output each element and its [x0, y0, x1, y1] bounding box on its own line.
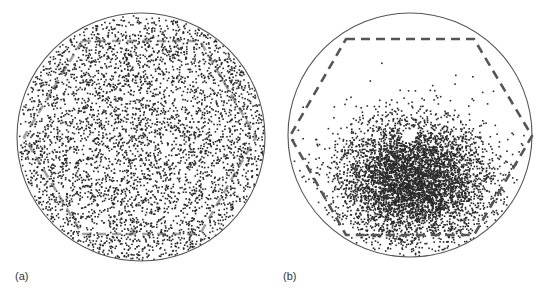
panel-label-b: (b): [283, 270, 296, 282]
scatter-plot-a: [0, 0, 275, 270]
data-points: [19, 15, 265, 261]
panel-b: (b): [275, 0, 551, 295]
panel-label-a: (a): [15, 270, 28, 282]
scatter-plot-b: [275, 0, 551, 270]
panel-a: (a): [0, 0, 275, 295]
